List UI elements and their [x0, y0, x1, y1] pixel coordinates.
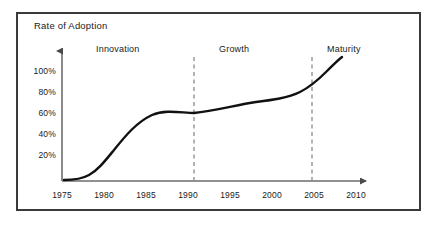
y-axis-tick-40: 40%: [28, 129, 56, 139]
y-axis-tick-20: 20%: [28, 150, 56, 160]
adoption-s-curve: [64, 57, 342, 180]
x-axis-tick-1975: 1975: [47, 190, 77, 200]
stage-label-innovation: Innovation: [96, 44, 140, 54]
x-axis-tick-2010: 2010: [341, 190, 371, 200]
x-axis-tick-1995: 1995: [215, 190, 245, 200]
x-axis-tick-1990: 1990: [173, 190, 203, 200]
y-axis-tick-100: 100%: [28, 66, 56, 76]
y-axis-tick-60: 60%: [28, 108, 56, 118]
stage-label-growth: Growth: [219, 44, 249, 54]
stage-label-maturity: Maturity: [327, 44, 361, 54]
x-axis-tick-1985: 1985: [131, 190, 161, 200]
x-axis-tick-2000: 2000: [257, 190, 287, 200]
x-axis-tick-2005: 2005: [299, 190, 329, 200]
chart-title: Rate of Adoption: [34, 20, 107, 31]
y-axis-tick-80: 80%: [28, 87, 56, 97]
x-axis-tick-1980: 1980: [89, 190, 119, 200]
